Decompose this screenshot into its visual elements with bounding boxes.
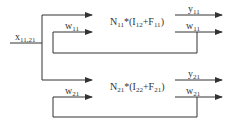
formula-1: N11*(I12+F11) [110,16,164,29]
feedback-label-1: w11 [65,20,79,33]
output-w-label-1: w11 [186,20,200,33]
diagram-canvas: x11,21 w11 N11*(I12+F11) y11 w11 [0,0,228,122]
block-1: w11 N11*(I12+F11) y11 w11 [42,3,222,53]
output-y-label-1: y11 [188,3,200,16]
formula-2: N21*(I22+F21) [110,81,164,94]
block-2: w21 N21*(I22+F21) y21 w21 [42,68,222,117]
output-y-label-2: y21 [188,68,201,81]
feedback-label-2: w21 [65,85,80,98]
output-w-label-2: w21 [186,85,201,98]
input-label: x11,21 [15,31,36,44]
